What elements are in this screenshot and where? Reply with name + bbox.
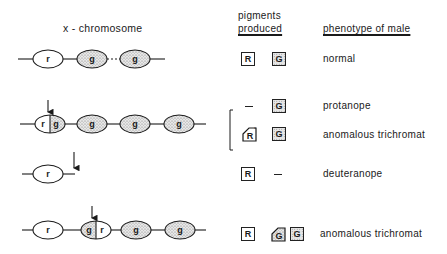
phenotype-deuteranope: deuteranope — [323, 168, 382, 179]
gene-label: g — [89, 54, 95, 64]
svg-text:g: g — [133, 225, 139, 235]
svg-text:r: r — [46, 225, 50, 235]
svg-text:r: r — [46, 169, 50, 179]
svg-text:r: r — [100, 225, 104, 235]
pigment-none — [274, 174, 282, 175]
pigment-G: G — [272, 52, 286, 66]
pigment-G: G — [290, 227, 304, 241]
pigment-G: G — [272, 127, 286, 141]
pigment-G: G — [272, 99, 286, 113]
gene-label: r — [46, 54, 50, 64]
svg-text:R: R — [247, 131, 254, 141]
pigment-R: R — [241, 52, 255, 66]
chromosome-diagrams: r g g r g g g g r — [0, 0, 447, 254]
phenotype-normal: normal — [323, 53, 355, 64]
svg-text:g: g — [177, 225, 183, 235]
phenotype-protanope: protanope — [323, 100, 371, 111]
svg-text:g: g — [53, 119, 59, 129]
pigment-R: R — [241, 227, 255, 241]
outcome-bracket — [230, 110, 233, 150]
svg-text:g: g — [86, 225, 92, 235]
svg-text:G: G — [275, 231, 282, 241]
gene-label: g — [132, 54, 138, 64]
svg-text:g: g — [89, 119, 95, 129]
svg-text:r: r — [41, 119, 45, 129]
svg-text:g: g — [176, 119, 182, 129]
pigment-none — [245, 106, 253, 107]
svg-text:g: g — [132, 119, 138, 129]
phenotype-anomalous-trichromat: anomalous trichromat — [323, 129, 425, 140]
pigment-R: R — [241, 167, 255, 181]
phenotype-anomalous-trichromat: anomalous trichromat — [320, 228, 422, 239]
svg-text:°: ° — [254, 126, 256, 132]
